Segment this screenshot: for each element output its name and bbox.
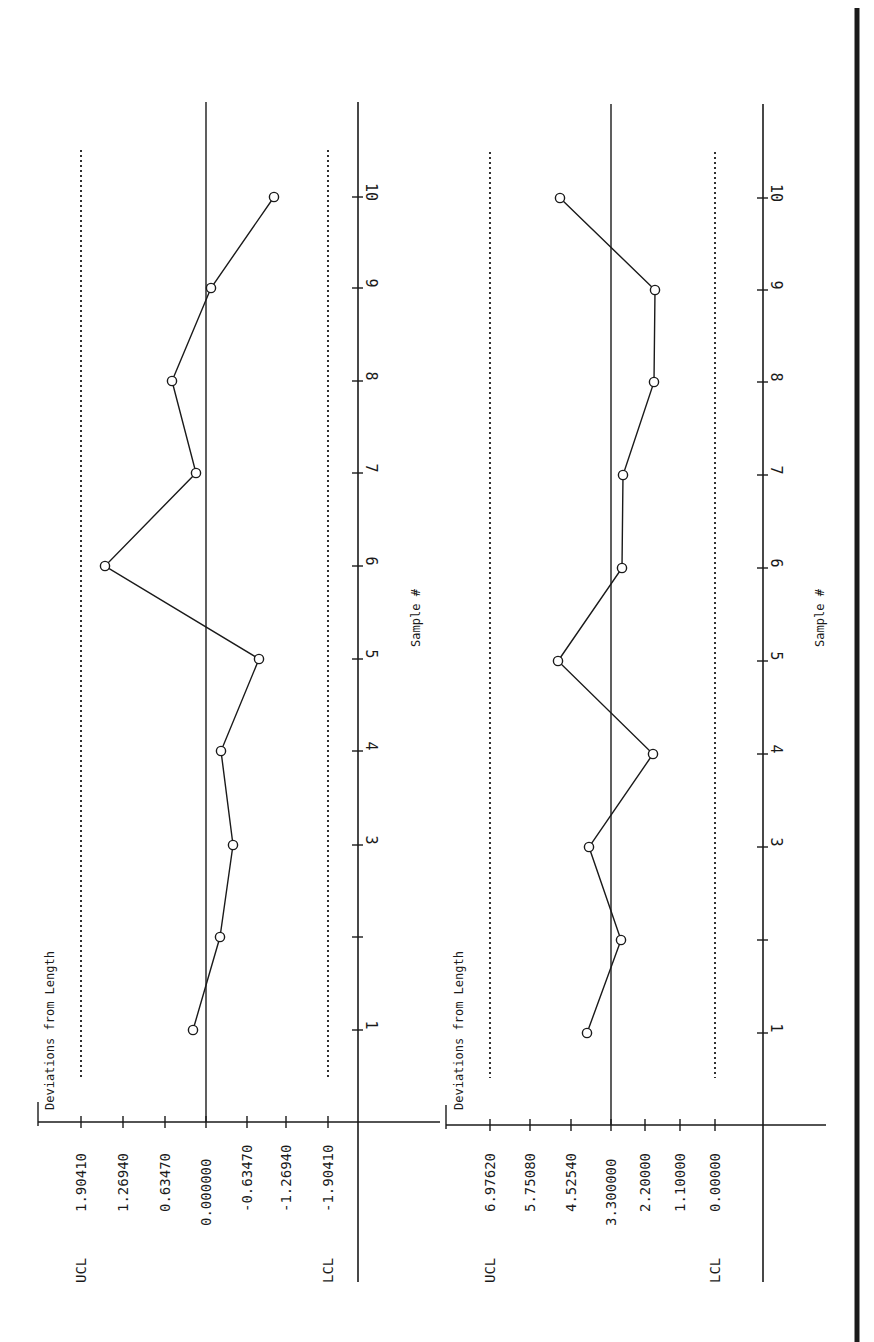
- value-tick-label: 1.26940: [115, 1153, 131, 1212]
- value-tick-label: 1.10000: [672, 1153, 688, 1212]
- data-point-marker: [649, 377, 658, 386]
- sample-tick-label: 8: [362, 371, 380, 380]
- data-point-marker: [650, 285, 659, 294]
- value-tick-label: -1.90410: [320, 1145, 336, 1212]
- sample-tick-label: 3: [767, 837, 785, 846]
- sample-tick-label: 1: [362, 1020, 380, 1029]
- lcl-label: LCL: [320, 1258, 336, 1283]
- value-tick-label: 0.000000: [198, 1159, 214, 1226]
- sample-tick-label: 1: [767, 1023, 785, 1032]
- data-point-marker: [228, 840, 237, 849]
- sample-tick-label: 5: [767, 651, 785, 660]
- data-point-marker: [206, 283, 215, 292]
- sample-tick-label: 10: [362, 183, 380, 201]
- sample-tick-label: 10: [767, 184, 785, 202]
- sample-tick-label: 4: [767, 744, 785, 753]
- data-point-marker: [582, 1028, 591, 1037]
- value-tick-label: -0.63470: [239, 1145, 255, 1212]
- sample-tick-label: 4: [362, 741, 380, 750]
- data-point-marker: [254, 654, 263, 663]
- data-point-marker: [167, 376, 176, 385]
- data-point-marker: [616, 935, 625, 944]
- chart-title: Deviations from Length: [43, 951, 57, 1110]
- sample-tick-label: 6: [362, 556, 380, 565]
- value-tick-label: 0.63470: [157, 1153, 173, 1212]
- data-point-marker: [269, 192, 278, 201]
- value-tick-label: 2.20000: [637, 1153, 653, 1212]
- sample-tick-label: 8: [767, 372, 785, 381]
- value-tick-label: 6.97620: [482, 1153, 498, 1212]
- sample-tick-label: 9: [767, 280, 785, 289]
- sample-tick-label: 9: [362, 278, 380, 287]
- control-charts: 1.904101.269400.634700.000000-0.63470-1.…: [0, 0, 874, 1342]
- data-point-marker: [100, 561, 109, 570]
- value-tick-label: 3.300000: [603, 1159, 619, 1226]
- sample-axis-title: Sample #: [409, 588, 423, 647]
- data-point-marker: [617, 563, 626, 572]
- value-tick-label: 5.75080: [522, 1153, 538, 1212]
- lcl-label: LCL: [707, 1258, 723, 1283]
- ucl-label: UCL: [482, 1258, 498, 1283]
- value-tick-label: 0.00000: [707, 1153, 723, 1212]
- control-chart-panel-2: 6.976205.750804.525403.3000002.200001.10…: [446, 104, 827, 1283]
- data-point-marker: [553, 656, 562, 665]
- data-line: [105, 197, 274, 1030]
- data-point-marker: [191, 468, 200, 477]
- data-point-marker: [216, 746, 225, 755]
- data-point-marker: [584, 842, 593, 851]
- chart-title: Deviations from Length: [452, 951, 466, 1110]
- value-tick-label: 1.90410: [73, 1153, 89, 1212]
- data-point-marker: [555, 193, 564, 202]
- sample-tick-label: 6: [767, 558, 785, 567]
- data-line: [558, 198, 655, 1033]
- data-point-marker: [618, 470, 627, 479]
- value-tick-label: 4.52540: [563, 1153, 579, 1212]
- sample-axis-title: Sample #: [813, 588, 827, 647]
- sample-tick-label: 5: [362, 649, 380, 658]
- data-point-marker: [215, 932, 224, 941]
- sample-tick-label: 3: [362, 835, 380, 844]
- sample-tick-label: 7: [767, 465, 785, 474]
- data-point-marker: [188, 1025, 197, 1034]
- control-chart-panel-1: 1.904101.269400.634700.000000-0.63470-1.…: [38, 102, 440, 1283]
- sample-tick-label: 7: [362, 463, 380, 472]
- data-point-marker: [648, 749, 657, 758]
- value-tick-label: -1.26940: [278, 1145, 294, 1212]
- ucl-label: UCL: [73, 1258, 89, 1283]
- control-chart-page: 1.904101.269400.634700.000000-0.63470-1.…: [0, 0, 874, 1342]
